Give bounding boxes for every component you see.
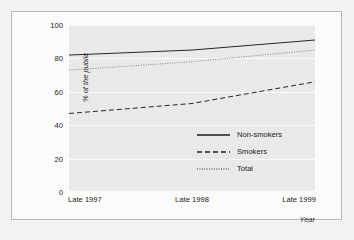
x-tick-late-1999: Late 1999 xyxy=(282,195,316,204)
chart-figure: % of the public 100 80 60 40 20 0 Late 1… xyxy=(11,11,342,220)
x-tick-late-1997: Late 1997 xyxy=(68,195,102,204)
legend-label-non-smokers: Non-smokers xyxy=(237,130,282,139)
series-line-smokers xyxy=(69,82,315,114)
legend-swatch-solid-line-icon xyxy=(197,130,230,140)
y-tick-20: 20 xyxy=(23,154,63,163)
legend-label-total: Total xyxy=(237,164,253,173)
legend-item-smokers: Smokers xyxy=(197,143,313,160)
y-tick-40: 40 xyxy=(23,121,63,130)
y-tick-60: 60 xyxy=(23,87,63,96)
series-line-non-smokers xyxy=(69,40,315,55)
y-tick-100: 100 xyxy=(23,21,63,30)
x-tick-late-1998: Late 1998 xyxy=(175,195,209,204)
legend-item-total: Total xyxy=(197,160,313,177)
legend-swatch-dashed-line-icon xyxy=(197,147,230,157)
x-axis-title: Year xyxy=(300,215,315,224)
legend-swatch-dotted-line-icon xyxy=(197,164,230,174)
series-line-total xyxy=(69,50,315,70)
y-tick-80: 80 xyxy=(23,54,63,63)
legend-label-smokers: Smokers xyxy=(237,147,267,156)
legend-item-non-smokers: Non-smokers xyxy=(197,126,313,143)
plot-area: % of the public 100 80 60 40 20 0 Late 1… xyxy=(69,25,315,192)
y-tick-0: 0 xyxy=(23,188,63,197)
chart-legend: Non-smokers Smokers Total xyxy=(197,126,313,177)
